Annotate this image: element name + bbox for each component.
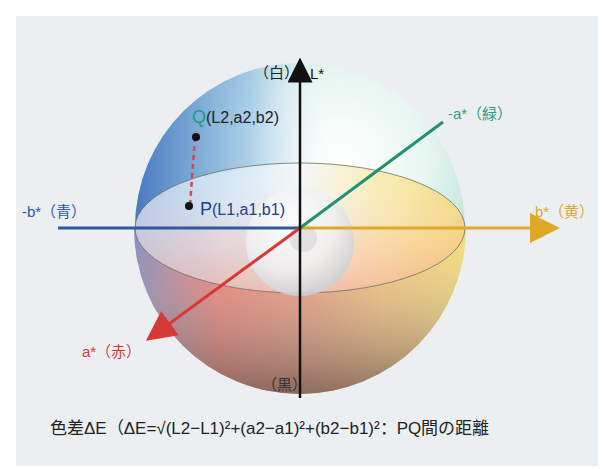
point-Q-name: Q — [192, 107, 206, 127]
lab-sphere-diagram — [0, 0, 604, 469]
point-Q-coords: (L2,a2,b2) — [206, 109, 279, 126]
label-point-P: P(L1,a1,b1) — [200, 200, 285, 218]
point-P-name: P — [200, 199, 212, 219]
label-black: （黒） — [262, 378, 307, 393]
label-a-red: a*（赤） — [82, 344, 141, 359]
point-P — [185, 202, 193, 210]
label-point-Q: Q(L2,a2,b2) — [192, 108, 279, 126]
color-difference-formula: 色差ΔE（ΔE=√(L2−L1)²+(a2−a1)²+(b2−b1)²：PQ間の… — [50, 414, 489, 439]
label-minus-a-green: -a*（緑） — [448, 106, 512, 121]
label-L-axis: L* — [310, 66, 324, 81]
label-white: （白） — [254, 66, 299, 81]
point-Q — [192, 133, 200, 141]
point-P-coords: (L1,a1,b1) — [212, 201, 285, 218]
label-minus-b-blue: -b*（青） — [22, 204, 86, 219]
label-b-yellow: b*（黄） — [535, 204, 594, 219]
